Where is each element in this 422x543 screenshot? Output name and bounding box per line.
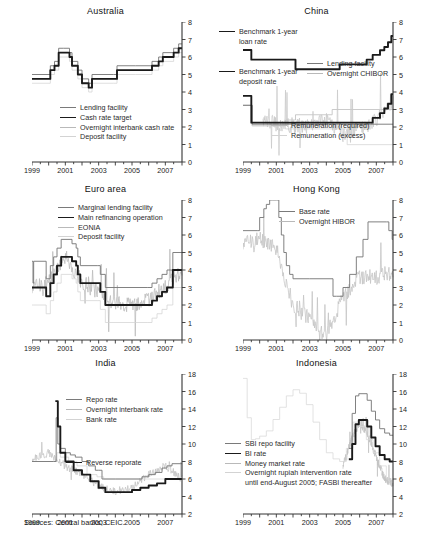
series-line — [32, 53, 182, 92]
legend-label: Repo rate — [86, 396, 118, 403]
y-tick-label: 7 — [188, 213, 192, 222]
y-tick-label: 0 — [399, 336, 403, 345]
y-tick-label: 0 — [188, 158, 192, 167]
x-tick-label: 2005 — [124, 518, 140, 527]
legend-item: Benchmark 1-year — [219, 28, 298, 35]
y-tick-label: 1 — [188, 318, 192, 327]
panel-euro-area: Euro area Marginal lending facilityMain … — [0, 184, 211, 356]
y-tick-label: 4 — [188, 266, 192, 275]
legend-euro-area: Marginal lending facilityMain refinancin… — [58, 204, 163, 243]
legend-swatch — [66, 462, 82, 463]
legend-item: BI rate — [225, 450, 372, 457]
y-tick-label: 5 — [399, 70, 403, 79]
legend-label: Remuneration (excess) — [291, 132, 365, 139]
legend-label: Deposit facility — [78, 233, 124, 240]
legend-item: EONIA — [58, 224, 163, 231]
legend-label: Cash rate target — [80, 114, 132, 121]
legend-china-loan: Benchmark 1-yearloan rate — [219, 28, 298, 48]
legend-item: Overnight interbank rate — [66, 406, 163, 413]
x-tick-label: 1999 — [235, 166, 251, 175]
legend-item: Overnight interbank cash rate — [60, 124, 174, 131]
x-tick-label: 2001 — [57, 344, 73, 353]
legend-swatch — [66, 419, 82, 420]
y-tick-label: 8 — [399, 457, 403, 466]
y-tick-label: 18 — [399, 370, 407, 379]
y-tick-label: 4 — [399, 266, 403, 275]
panel-indonesia: Indonesia SBI repo facilityBI rateMoney … — [211, 358, 422, 530]
legend-item: Remuneration (required) — [271, 122, 369, 129]
legend-swatch — [307, 63, 323, 64]
legend-swatch — [307, 73, 323, 74]
y-tick-label: 0 — [188, 336, 192, 345]
y-tick-label: 8 — [188, 18, 192, 27]
legend-label: loan rate — [239, 38, 267, 45]
y-tick-label: 7 — [399, 213, 403, 222]
y-tick-label: 6 — [188, 475, 192, 484]
x-tick-label: 2001 — [268, 344, 284, 353]
legend-swatch — [58, 207, 74, 208]
legend-item: Marginal lending facility — [58, 204, 163, 211]
y-tick-label: 4 — [399, 88, 403, 97]
x-tick-label: 2001 — [268, 518, 284, 527]
panel-india: India Repo rateOvernight interbank rateB… — [0, 358, 211, 530]
legend-swatch — [60, 127, 76, 128]
x-tick-label: 2007 — [157, 518, 173, 527]
legend-swatch — [271, 135, 287, 136]
legend-item: deposit rate — [219, 78, 298, 85]
y-tick-label: 5 — [399, 248, 403, 257]
x-tick-label: 2001 — [268, 166, 284, 175]
y-tick-label: 2 — [399, 510, 403, 519]
legend-label: Overnight interbank rate — [86, 406, 163, 413]
panel-title-hong-kong: Hong Kong — [211, 184, 422, 194]
x-tick-label: 2003 — [302, 166, 318, 175]
panel-title-china: China — [211, 6, 422, 16]
x-tick-label: 2005 — [124, 166, 140, 175]
legend-swatch — [219, 71, 235, 72]
legend-label: Base rate — [299, 208, 330, 215]
y-tick-label: 16 — [188, 387, 196, 396]
legend-item: Lending facility — [60, 104, 174, 111]
legend-swatch — [219, 31, 235, 32]
chart-svg — [32, 22, 194, 172]
y-tick-label: 18 — [188, 370, 196, 379]
x-tick-label: 2003 — [91, 166, 107, 175]
legend-item: Overnight CHIBOR — [307, 70, 388, 77]
y-tick-label: 10 — [188, 440, 196, 449]
legend-item: Overnight rupiah intervention rate — [225, 469, 372, 476]
y-tick-label: 6 — [188, 231, 192, 240]
legend-item: loan rate — [219, 38, 298, 45]
legend-item: Remuneration (excess) — [271, 132, 369, 139]
legend-swatch — [225, 472, 241, 473]
legend-swatch — [60, 136, 76, 137]
legend-label: Overnight HIBOR — [299, 218, 355, 225]
legend-label: deposit rate — [239, 78, 277, 85]
y-tick-label: 2 — [188, 123, 192, 132]
y-tick-label: 6 — [188, 53, 192, 62]
x-tick-label: 2007 — [368, 518, 384, 527]
y-tick-label: 1 — [399, 318, 403, 327]
x-tick-label: 2005 — [335, 344, 351, 353]
panel-hong-kong: Hong Kong Base rateOvernight HIBOR 01234… — [211, 184, 422, 356]
y-tick-label: 12 — [188, 422, 196, 431]
y-tick-label: 16 — [399, 387, 407, 396]
y-tick-label: 7 — [399, 35, 403, 44]
series-line — [32, 48, 182, 87]
legend-item: Cash rate target — [60, 114, 174, 121]
legend-swatch — [66, 409, 82, 410]
legend-item: Benchmark 1-year — [219, 68, 298, 75]
legend-label: Money market rate — [245, 460, 305, 467]
legend-swatch — [58, 227, 74, 228]
legend-swatch — [225, 463, 241, 464]
legend-item: Overnight HIBOR — [279, 218, 355, 225]
legend-label: Lending facility — [327, 60, 375, 67]
panel-title-euro-area: Euro area — [0, 184, 211, 194]
x-tick-label: 2007 — [368, 344, 384, 353]
y-tick-label: 8 — [399, 18, 403, 27]
y-tick-label: 2 — [188, 510, 192, 519]
legend-china-remuneration: Remuneration (required)Remuneration (exc… — [271, 122, 369, 142]
legend-swatch — [58, 236, 74, 237]
y-tick-label: 6 — [399, 53, 403, 62]
y-tick-label: 3 — [399, 283, 403, 292]
x-tick-label: 2007 — [157, 344, 173, 353]
x-tick-label: 1999 — [24, 344, 40, 353]
